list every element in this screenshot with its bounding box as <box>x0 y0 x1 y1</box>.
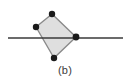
vertex-right <box>73 34 80 41</box>
vertex-bottom <box>51 55 57 61</box>
vertex-left <box>33 24 39 30</box>
figure-panel: (b) <box>0 0 130 83</box>
vertex-top <box>49 11 55 17</box>
figure-caption: (b) <box>0 63 130 77</box>
